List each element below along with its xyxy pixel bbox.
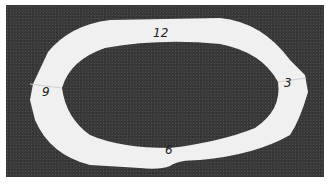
label-9: 9	[42, 85, 50, 99]
label-12: 12	[153, 26, 168, 40]
label-3: 3	[284, 76, 292, 90]
label-6: 6	[165, 143, 173, 157]
